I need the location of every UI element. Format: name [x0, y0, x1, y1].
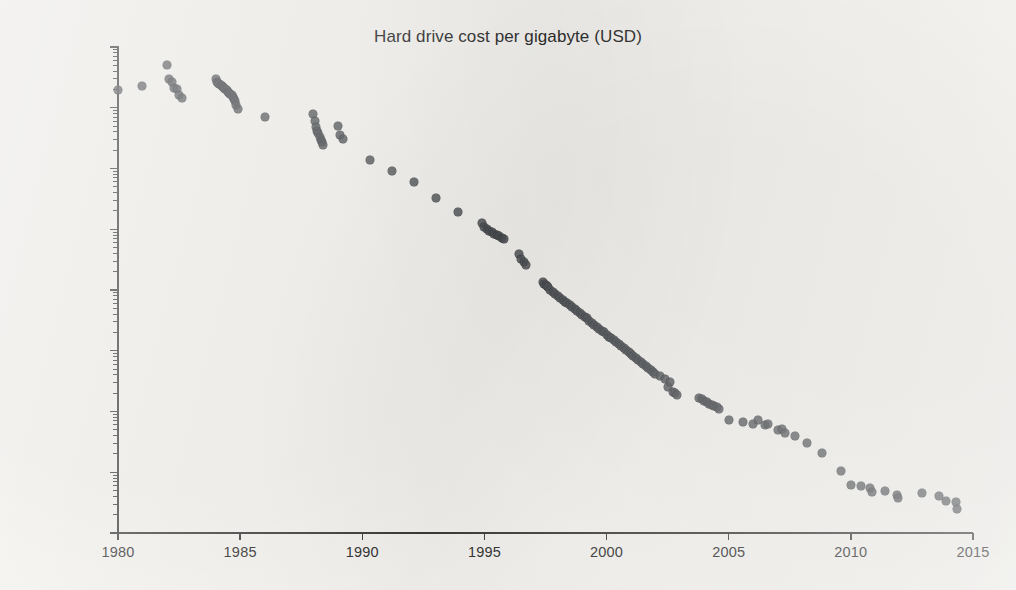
x-tick-label: 2005: [712, 544, 745, 560]
x-tick-label: 2000: [590, 544, 623, 560]
x-tick-label: 1980: [101, 544, 134, 560]
chart-page: Hard drive cost per gigabyte (USD) $1 00…: [0, 0, 1016, 590]
x-tick-label: 2015: [956, 544, 989, 560]
x-tick-label: 1995: [468, 544, 501, 560]
x-tick-label: 1985: [224, 544, 257, 560]
x-axis-tick-labels: 19801985199019952000200520102015: [0, 0, 1016, 590]
x-tick-label: 1990: [346, 544, 379, 560]
x-tick-label: 2010: [834, 544, 867, 560]
